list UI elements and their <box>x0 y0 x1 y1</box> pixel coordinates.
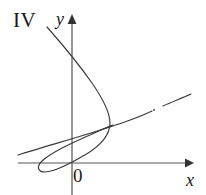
curve-lower-branch-tail-path <box>163 94 191 106</box>
x-axis-label: x <box>186 171 194 189</box>
x-axis-arrow-icon <box>185 159 194 168</box>
curve-lower-branch-path <box>18 111 152 155</box>
panel-label-iv: IV <box>13 10 36 31</box>
y-axis-arrow-icon <box>68 14 77 24</box>
y-axis-label: y <box>56 10 64 28</box>
x-axis-group <box>18 159 194 168</box>
figure-panel: IV y x 0 <box>0 0 206 195</box>
curve-gap-marker <box>153 109 155 111</box>
origin-label: 0 <box>73 166 83 185</box>
curve-upper-branch-path <box>38 27 113 172</box>
